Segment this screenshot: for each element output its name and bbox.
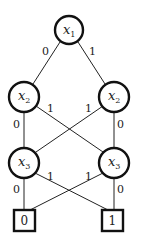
- edge-label: 1: [47, 102, 54, 115]
- bdd-diagram: 0 1 0 1 1 0 0 1 1 0 x1 x2 x2 x3 x3 0 1: [0, 0, 142, 247]
- edge-label: 0: [117, 183, 124, 196]
- node-x1: x1: [55, 16, 83, 44]
- node-x3-left: x3: [9, 148, 39, 178]
- svg-text:0: 0: [21, 214, 29, 228]
- edge-label: 1: [89, 45, 96, 58]
- node-x2-left: x2: [9, 82, 39, 112]
- node-x3-right: x3: [99, 148, 129, 178]
- edge-label: 1: [47, 170, 54, 183]
- edge-label: 0: [117, 118, 124, 131]
- edge-label: 0: [13, 118, 20, 131]
- edge-label: 1: [85, 170, 92, 183]
- edge-x3b-t0: [30, 173, 103, 210]
- terminal-0: 0: [14, 210, 35, 231]
- svg-text:1: 1: [109, 214, 117, 228]
- edge-label: 1: [85, 102, 92, 115]
- edge-x3a-t1: [35, 173, 108, 210]
- edge-label: 0: [42, 45, 49, 58]
- terminal-1: 1: [102, 210, 123, 231]
- edge-label: 0: [13, 183, 20, 196]
- node-x2-right: x2: [99, 82, 129, 112]
